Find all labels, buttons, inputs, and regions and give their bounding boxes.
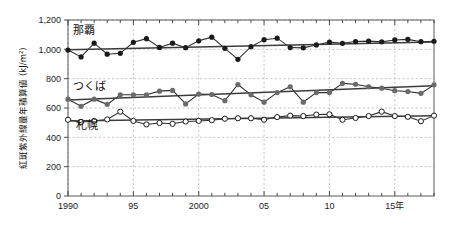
data-point — [78, 104, 83, 109]
data-point — [183, 45, 188, 50]
data-point — [183, 119, 188, 124]
data-point — [392, 88, 397, 93]
data-point — [196, 38, 201, 43]
data-point — [157, 89, 162, 94]
data-point — [379, 39, 384, 44]
data-point — [379, 86, 384, 91]
y-axis-tick-label: 0 — [56, 191, 61, 201]
y-axis-title: 紅斑紫外線量年積算値 (kJ/m²) — [18, 47, 28, 168]
data-point — [353, 82, 358, 87]
data-point — [366, 39, 371, 44]
data-point — [131, 40, 136, 45]
data-point — [144, 36, 149, 41]
data-point — [261, 100, 266, 105]
data-point — [366, 113, 371, 118]
data-point — [105, 52, 110, 57]
data-point — [301, 45, 306, 50]
data-point — [222, 116, 227, 121]
data-point — [131, 118, 136, 123]
data-point — [118, 51, 123, 56]
data-point — [65, 117, 70, 122]
x-axis-tick-label: 95 — [128, 201, 138, 211]
data-point — [118, 109, 123, 114]
data-point — [157, 45, 162, 50]
y-axis-tick-label: 1,000 — [38, 45, 61, 55]
y-axis-tick-label: 800 — [46, 74, 61, 84]
data-point — [78, 54, 83, 59]
data-point — [209, 118, 214, 123]
data-point — [248, 92, 253, 97]
data-point — [65, 97, 70, 102]
data-point — [170, 121, 175, 126]
data-point — [222, 46, 227, 51]
data-point — [92, 41, 97, 46]
data-point — [353, 39, 358, 44]
data-point — [261, 37, 266, 42]
data-point — [301, 100, 306, 105]
data-point — [248, 116, 253, 121]
data-point — [131, 92, 136, 97]
data-point — [105, 102, 110, 107]
data-point — [288, 84, 293, 89]
data-point — [405, 114, 410, 119]
y-axis-tick-label: 400 — [46, 133, 61, 143]
data-point — [288, 113, 293, 118]
data-point — [235, 57, 240, 62]
x-axis-tick-label: 2000 — [189, 201, 209, 211]
data-point — [314, 42, 319, 47]
data-point — [170, 88, 175, 93]
x-axis-tick-label: 1990 — [58, 201, 78, 211]
uv-annual-integral-line-chart: 1990952000051015年02004006008001,0001,200… — [0, 0, 452, 236]
data-point — [196, 118, 201, 123]
series-1 — [65, 35, 436, 62]
data-point — [209, 92, 214, 97]
data-point — [340, 41, 345, 46]
series-2 — [65, 81, 436, 109]
data-point — [418, 91, 423, 96]
data-point — [418, 119, 423, 124]
data-point — [392, 113, 397, 118]
data-point — [261, 117, 266, 122]
chart-container: 1990952000051015年02004006008001,0001,200… — [0, 0, 452, 236]
data-point — [431, 82, 436, 87]
data-point — [65, 47, 70, 52]
data-point — [222, 98, 227, 103]
data-point — [418, 39, 423, 44]
data-point — [301, 113, 306, 118]
y-axis-tick-label: 1,200 — [38, 15, 61, 25]
data-point — [235, 116, 240, 121]
y-axis-tick-label: 600 — [46, 103, 61, 113]
data-point — [366, 84, 371, 89]
data-point — [340, 117, 345, 122]
data-point — [157, 120, 162, 125]
data-point — [288, 45, 293, 50]
series-annotation-label: つくば — [73, 80, 106, 93]
data-point — [196, 91, 201, 96]
data-point — [170, 41, 175, 46]
x-axis-tick-label: 15年 — [385, 200, 404, 211]
data-point — [235, 82, 240, 87]
data-point — [340, 81, 345, 86]
data-point — [327, 112, 332, 117]
data-point — [379, 109, 384, 114]
data-point — [431, 113, 436, 118]
data-point — [144, 122, 149, 127]
data-point — [314, 112, 319, 117]
x-axis-tick-label: 10 — [324, 201, 334, 211]
data-point — [248, 44, 253, 49]
x-axis-tick-label: 05 — [259, 201, 269, 211]
data-point — [405, 89, 410, 94]
data-point — [275, 90, 280, 95]
data-point — [275, 36, 280, 41]
data-point — [105, 117, 110, 122]
data-point — [314, 90, 319, 95]
data-point — [327, 40, 332, 45]
data-point — [392, 37, 397, 42]
y-axis-tick-label: 200 — [46, 162, 61, 172]
data-point — [92, 97, 97, 102]
series-annotation-label: 那覇 — [73, 24, 95, 37]
data-point — [183, 101, 188, 106]
data-point — [118, 92, 123, 97]
data-point — [327, 90, 332, 95]
series-3 — [65, 109, 436, 127]
